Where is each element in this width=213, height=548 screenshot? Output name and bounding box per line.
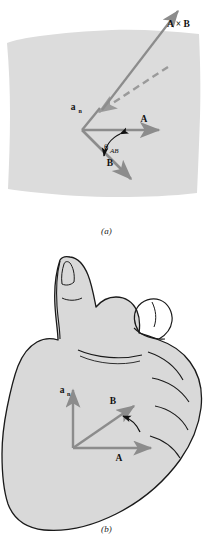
panel-a-plane-diagram: A × B A B a n θ AB xyxy=(0,0,213,240)
hand-illustration xyxy=(2,257,202,531)
hand-palm-outline xyxy=(2,257,202,531)
plane-surface xyxy=(7,30,200,197)
figure-right-hand-rule: A × B A B a n θ AB (a) xyxy=(0,0,213,548)
caption-panel-b: (b) xyxy=(0,524,213,534)
label-a-cross-b: A × B xyxy=(167,19,190,29)
svg-text:AB: AB xyxy=(109,147,119,155)
svg-text:a: a xyxy=(71,102,76,112)
svg-text:a: a xyxy=(60,385,65,395)
label-vector-b: B xyxy=(110,396,117,406)
panel-b-hand-diagram: A B a n xyxy=(0,240,213,548)
label-vector-a: A xyxy=(116,453,123,463)
label-vector-b: B xyxy=(107,158,114,168)
label-vector-a: A xyxy=(141,114,148,124)
svg-text:θ: θ xyxy=(104,142,108,152)
index-finger-crease xyxy=(152,302,156,327)
caption-panel-a: (a) xyxy=(0,226,213,236)
